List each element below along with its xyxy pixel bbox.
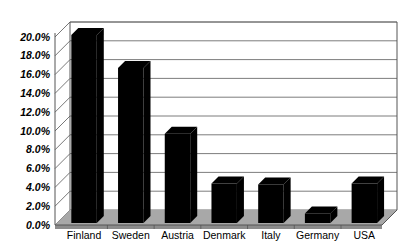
bar bbox=[258, 177, 290, 223]
x-axis-category-label: Finland bbox=[67, 229, 102, 241]
x-axis-category-label: Italy bbox=[261, 229, 281, 241]
bar-chart: 0.0%2.0%4.0%6.0%8.0%10.0%12.0%14.0%16.0%… bbox=[0, 0, 419, 252]
x-axis-category-label: Austria bbox=[161, 229, 194, 241]
y-axis-tick-label: 4.0% bbox=[25, 181, 51, 193]
bar bbox=[305, 207, 337, 223]
x-axis-category-labels: FinlandSwedenAustriaDenmarkItalyGermanyU… bbox=[67, 229, 375, 241]
y-axis-tick-label: 12.0% bbox=[20, 106, 50, 118]
bar bbox=[211, 177, 243, 223]
bar bbox=[165, 127, 197, 223]
y-axis-tick-label: 16.0% bbox=[20, 68, 50, 80]
bar bbox=[352, 177, 384, 223]
y-axis-tick-label: 6.0% bbox=[26, 162, 51, 174]
chart-canvas: 0.0%2.0%4.0%6.0%8.0%10.0%12.0%14.0%16.0%… bbox=[0, 0, 419, 252]
y-axis-tick-label: 18.0% bbox=[20, 49, 50, 61]
y-axis-tick-label: 8.0% bbox=[26, 143, 51, 155]
y-axis-tick-labels: 0.0%2.0%4.0%6.0%8.0%10.0%12.0%14.0%16.0%… bbox=[19, 31, 50, 231]
x-axis-category-label: Sweden bbox=[112, 229, 150, 241]
y-axis-tick-label: 20.0% bbox=[19, 31, 50, 43]
x-axis-category-label: Germany bbox=[296, 229, 340, 241]
y-axis-tick-label: 14.0% bbox=[20, 87, 50, 99]
y-axis-tick-label: 10.0% bbox=[20, 125, 50, 137]
y-axis-tick-label: 0.0% bbox=[26, 219, 51, 231]
x-axis-category-label: USA bbox=[354, 229, 376, 241]
x-axis-category-label: Denmark bbox=[203, 229, 246, 241]
bar bbox=[118, 61, 150, 223]
y-axis-tick-label: 2.0% bbox=[25, 200, 51, 212]
bar bbox=[71, 28, 103, 223]
